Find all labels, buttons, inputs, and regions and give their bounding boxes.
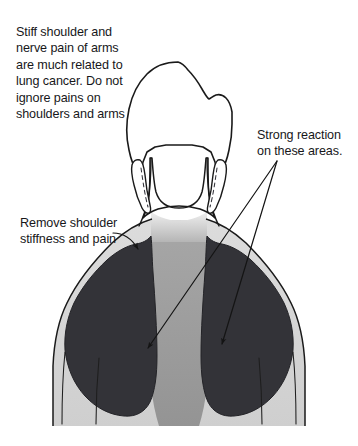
ear-right	[207, 160, 226, 214]
annotation-stiff-shoulder: Stiff shoulder and nerve pain of arms ar…	[16, 24, 166, 122]
neck-outline	[143, 158, 215, 218]
annotation-strong-reaction: Strong reaction on these areas.	[257, 127, 358, 160]
ear-left	[132, 160, 151, 214]
annotation-remove-stiffness: Remove shoulder stiffness and pain	[20, 215, 160, 248]
spine-gray-region	[148, 232, 210, 426]
